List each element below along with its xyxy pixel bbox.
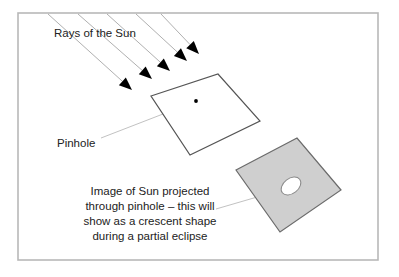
sun-ray-line xyxy=(48,14,122,81)
caption-line: Image of Sun projected xyxy=(91,185,210,197)
sun-rays-group xyxy=(48,14,199,90)
caption-line: show as a crescent shape xyxy=(84,215,217,227)
pinhole-card xyxy=(151,74,260,155)
sun-ray-arrowhead xyxy=(139,67,152,79)
pinhole-projection-diagram: Rays of the Sun Pinhole Image of Sun pro… xyxy=(0,0,399,277)
sun-ray-line xyxy=(78,14,142,70)
rays-of-the-sun-label: Rays of the Sun xyxy=(54,27,136,39)
pinhole-dot xyxy=(194,99,198,103)
caption-line: during a partial eclipse xyxy=(92,230,207,242)
sun-ray-line xyxy=(161,14,190,45)
caption-line: through pinhole – this will xyxy=(85,200,214,212)
pinhole-label: Pinhole xyxy=(57,137,95,149)
diagram-canvas: Rays of the Sun Pinhole Image of Sun pro… xyxy=(0,0,399,277)
caption-text-block: Image of Sun projectedthrough pinhole – … xyxy=(84,185,217,242)
